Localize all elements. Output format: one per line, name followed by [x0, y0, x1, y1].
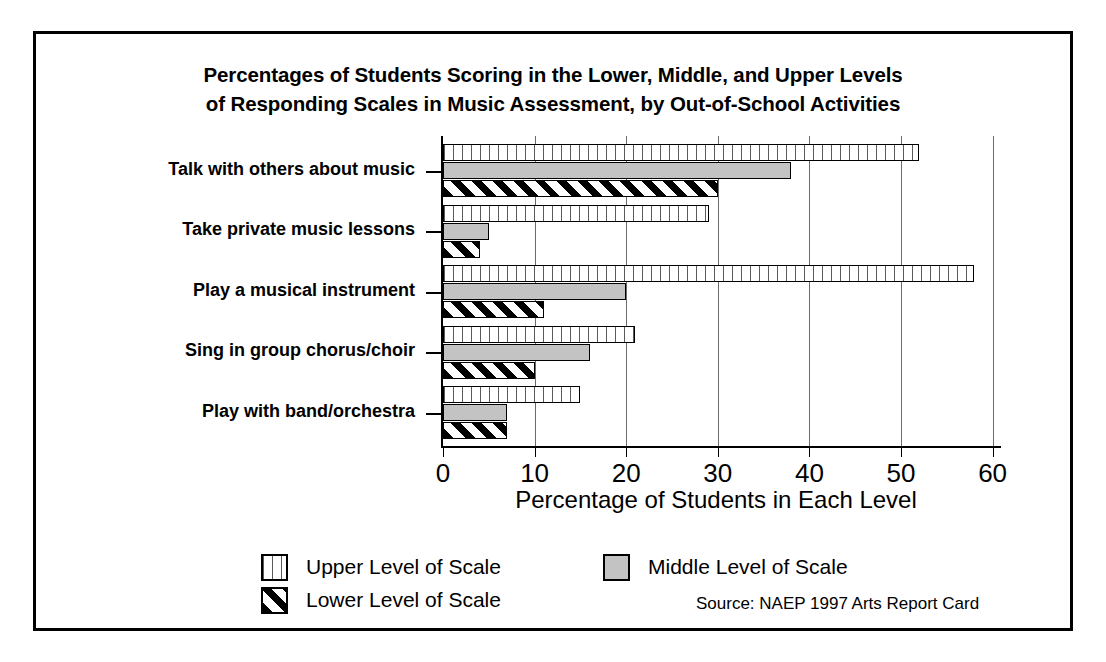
x-tick-0: [443, 448, 444, 457]
gridline-50: [901, 136, 902, 446]
bar-2-4: [443, 422, 507, 439]
x-tick-40: [809, 448, 810, 457]
x-tick-label-60: 60: [963, 458, 1023, 489]
category-label-0: Talk with others about music: [15, 159, 415, 180]
x-tick-10: [535, 448, 536, 457]
legend-label-1: Middle Level of Scale: [648, 555, 848, 579]
category-tick-2: [426, 292, 443, 294]
legend-swatch-icon-2: [261, 587, 288, 614]
x-tick-label-50: 50: [871, 458, 931, 489]
x-axis-line: [441, 446, 1001, 448]
x-tick-label-40: 40: [779, 458, 839, 489]
source-note: Source: NAEP 1997 Arts Report Card: [696, 594, 979, 614]
gridline-30: [718, 136, 719, 446]
legend-label-0: Upper Level of Scale: [306, 555, 501, 579]
x-tick-label-10: 10: [505, 458, 565, 489]
legend-swatch-icon-1: [603, 554, 630, 581]
x-tick-20: [626, 448, 627, 457]
bar-0-1: [443, 205, 709, 222]
x-tick-label-20: 20: [596, 458, 656, 489]
x-tick-label-0: 0: [413, 458, 473, 489]
bar-2-2: [443, 301, 544, 318]
bar-0-0: [443, 144, 919, 161]
category-label-1: Take private music lessons: [15, 219, 415, 240]
bar-0-3: [443, 326, 635, 343]
bar-0-2: [443, 265, 974, 282]
chart-figure: Percentages of Students Scoring in the L…: [33, 31, 1073, 631]
bar-1-2: [443, 283, 626, 300]
category-tick-1: [426, 231, 443, 233]
legend-label-2: Lower Level of Scale: [306, 588, 501, 612]
x-tick-label-30: 30: [688, 458, 748, 489]
category-label-4: Play with band/orchestra: [15, 401, 415, 422]
plot-area: 0102030405060: [441, 136, 1001, 448]
bar-1-1: [443, 223, 489, 240]
x-tick-30: [718, 448, 719, 457]
bar-2-0: [443, 180, 718, 197]
x-tick-50: [901, 448, 902, 457]
chart-title: Percentages of Students Scoring in the L…: [36, 60, 1070, 118]
chart-title-line-1: Percentages of Students Scoring in the L…: [36, 60, 1070, 89]
category-label-3: Sing in group chorus/choir: [15, 340, 415, 361]
category-label-2: Play a musical instrument: [15, 280, 415, 301]
bar-1-0: [443, 162, 791, 179]
x-axis-label: Percentage of Students in Each Level: [416, 486, 1016, 514]
x-tick-60: [993, 448, 994, 457]
bar-0-4: [443, 386, 580, 403]
legend-swatch-icon-0: [261, 554, 288, 581]
bar-1-3: [443, 344, 590, 361]
category-tick-0: [426, 171, 443, 173]
bar-2-1: [443, 241, 480, 258]
gridline-60: [993, 136, 994, 446]
gridline-40: [809, 136, 810, 446]
bar-1-4: [443, 404, 507, 421]
chart-title-line-2: of Responding Scales in Music Assessment…: [36, 89, 1070, 118]
category-tick-3: [426, 352, 443, 354]
bar-2-3: [443, 362, 535, 379]
category-tick-4: [426, 413, 443, 415]
